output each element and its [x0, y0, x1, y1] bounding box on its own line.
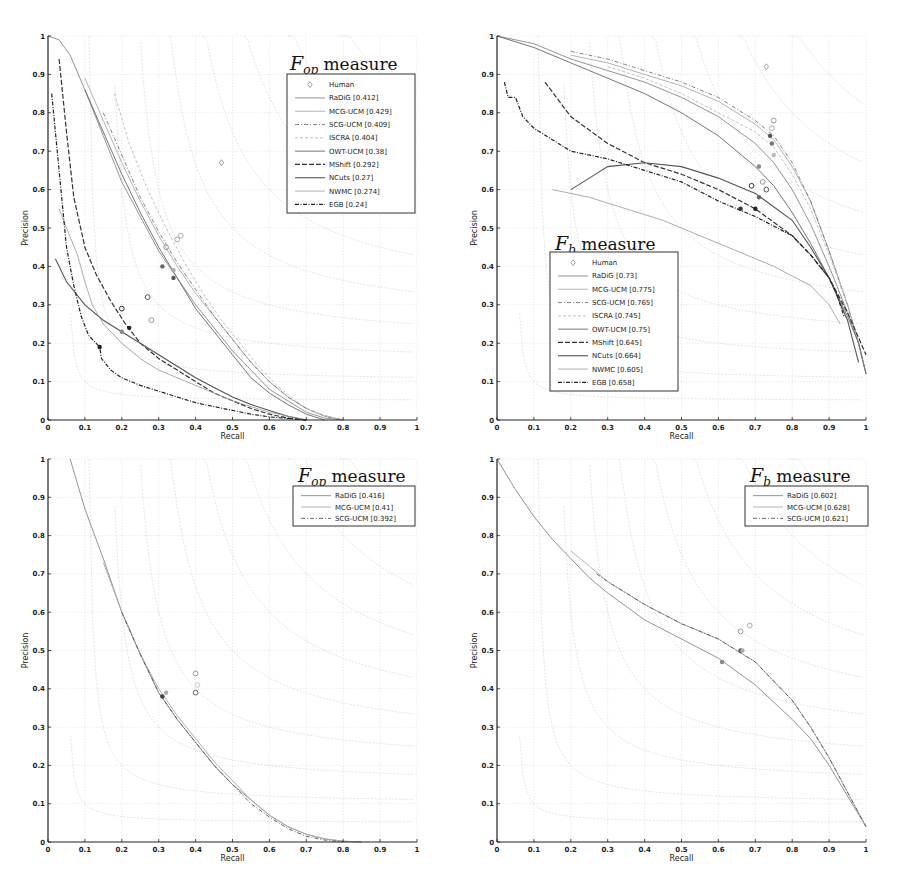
legend-label: NCuts [0.27] [329, 174, 373, 182]
y-tick-label: 0.6 [482, 609, 495, 617]
y-tick-label: 0.9 [33, 494, 46, 502]
y-tick-label: 0.2 [482, 762, 495, 770]
y-axis-label: Precision [470, 210, 479, 246]
legend-label: ISCRA [0.404] [329, 134, 378, 142]
y-tick-label: 0 [489, 839, 494, 847]
x-tick-label: 0.4 [189, 846, 202, 854]
y-tick-label: 0 [40, 417, 45, 425]
legend-label: RaDiG [0.416] [335, 492, 385, 500]
x-tick-label: 1 [415, 846, 420, 854]
marker-points [97, 160, 223, 350]
x-tick-label: 0.8 [337, 424, 350, 432]
x-axis-label: Recall [221, 432, 245, 441]
legend-label: NCuts [0.664] [592, 352, 641, 360]
x-tick-label: 0.9 [823, 424, 836, 432]
x-tick-label: 0.7 [749, 846, 762, 854]
ods-point-marker [160, 694, 164, 698]
charts-canvas: 00.10.20.30.40.50.60.70.80.9100.10.20.30… [0, 0, 903, 893]
legend-label: NWMC [0.274] [329, 188, 380, 196]
chart-title: Fop measure [297, 464, 406, 489]
y-axis-label: Precision [470, 633, 479, 669]
legend-label: MCG-UCM [0.429] [329, 108, 392, 116]
x-tick-label: 0.5 [226, 424, 239, 432]
y-tick-label: 0.2 [482, 340, 495, 348]
x-tick-label: 0.2 [565, 424, 578, 432]
human-marker [219, 160, 223, 166]
y-tick-label: 0.6 [33, 609, 46, 617]
y-tick-label: 0.8 [33, 109, 46, 117]
ods-point-marker [770, 141, 774, 145]
y-tick-label: 0.8 [33, 532, 46, 540]
y-tick-label: 0.9 [482, 71, 495, 79]
x-tick-label: 0.2 [116, 424, 129, 432]
series-scg-ucm [597, 574, 866, 827]
y-tick-label: 0 [489, 417, 494, 425]
legend-label: MCG-UCM [0.41] [335, 504, 393, 512]
ods-point-marker [171, 268, 175, 272]
x-tick-label: 0.6 [263, 846, 276, 854]
legend-label: MShift [0.292] [329, 161, 379, 169]
y-tick-label: 0.3 [33, 724, 46, 732]
y-tick-label: 0.9 [33, 71, 46, 79]
y-tick-label: 0.3 [482, 724, 495, 732]
x-tick-label: 0.5 [226, 846, 239, 854]
legend-label: RaDiG [0.73] [592, 272, 637, 280]
chart-top-right: 00.10.20.30.40.50.60.70.80.9100.10.20.30… [470, 33, 869, 442]
x-tick-label: 0.3 [601, 424, 614, 432]
x-axis-label: Recall [670, 854, 694, 863]
x-tick-label: 0.2 [116, 846, 129, 854]
optimal-point-marker [149, 318, 154, 323]
ods-point-marker [738, 207, 742, 211]
legend-label: OWT-UCM [0.38] [329, 148, 387, 156]
legend-label: EGB [0.24] [329, 201, 367, 209]
y-tick-label: 0 [40, 839, 45, 847]
ods-point-marker [720, 660, 724, 664]
x-tick-label: 0.7 [300, 424, 313, 432]
ods-point-marker [164, 690, 168, 694]
y-tick-label: 0.7 [482, 148, 495, 156]
x-tick-label: 0.4 [638, 846, 651, 854]
human-marker [764, 64, 768, 70]
optimal-point-marker [738, 629, 743, 634]
x-tick-label: 0.1 [528, 424, 541, 432]
y-tick-label: 0.7 [33, 148, 46, 156]
x-tick-label: 0 [495, 424, 500, 432]
x-tick-label: 0.2 [565, 846, 578, 854]
x-tick-label: 0.9 [374, 424, 387, 432]
x-tick-label: 0.9 [823, 846, 836, 854]
ods-point-marker [120, 329, 124, 333]
ods-point-marker [757, 195, 761, 199]
optimal-point-marker [178, 233, 183, 238]
y-tick-label: 1 [489, 456, 494, 464]
legend-label: ISCRA [0.745] [592, 312, 641, 320]
y-tick-label: 1 [40, 33, 45, 41]
marker-points [720, 623, 752, 664]
chart-bottom-left: 00.10.20.30.40.50.60.70.80.9100.10.20.30… [21, 456, 420, 864]
legend: HumanRaDiG [0.73]MCG-UCM [0.775]SCG-UCM … [550, 252, 678, 391]
ods-point-marker [768, 134, 772, 138]
x-tick-label: 0.3 [601, 846, 614, 854]
x-tick-label: 0.6 [712, 846, 725, 854]
ods-point-marker [97, 345, 101, 349]
x-axis-label: Recall [670, 432, 694, 441]
chart-top-left: 00.10.20.30.40.50.60.70.80.9100.10.20.30… [21, 33, 420, 442]
ods-point-marker [753, 207, 757, 211]
y-tick-label: 0.1 [482, 800, 495, 808]
y-tick-label: 0.3 [33, 301, 46, 309]
y-tick-label: 0.4 [482, 685, 495, 693]
y-tick-label: 0.5 [482, 647, 495, 655]
ods-point-marker [740, 648, 744, 652]
y-tick-label: 0.8 [482, 109, 495, 117]
x-tick-label: 1 [415, 424, 420, 432]
y-tick-label: 0.1 [33, 800, 46, 808]
x-tick-label: 0.4 [189, 424, 202, 432]
x-tick-label: 0.1 [79, 846, 92, 854]
y-axis-label: Precision [21, 633, 30, 669]
y-tick-label: 0.6 [33, 186, 46, 194]
x-tick-label: 0.6 [712, 424, 725, 432]
x-tick-label: 0.8 [337, 846, 350, 854]
chart-title: Fop measure [289, 52, 398, 77]
x-tick-label: 1 [864, 424, 869, 432]
legend-label: MCG-UCM [0.775] [592, 286, 655, 294]
legend-label: NWMC [0.605] [592, 366, 643, 374]
